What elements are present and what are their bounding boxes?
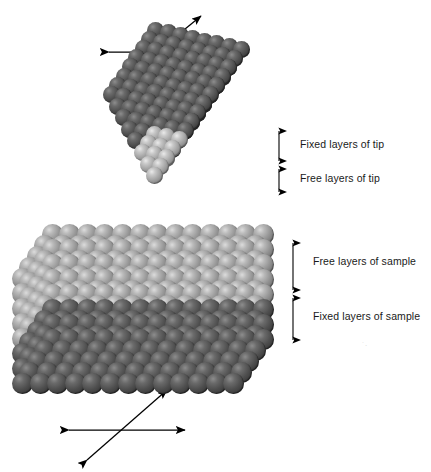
bracket-fixed-sample <box>285 294 301 346</box>
scan-axes-bottom-icon <box>63 382 213 468</box>
atom-sphere <box>223 373 244 394</box>
bracket-fixed-tip <box>271 126 287 166</box>
figure-canvas: Fixed layers of tip Free layers of tip F… <box>0 0 431 472</box>
label-free-layers-of-sample: Free layers of sample <box>313 255 416 267</box>
bracket-free-tip <box>271 165 287 197</box>
atom-sphere <box>146 167 163 184</box>
label-free-layers-of-tip: Free layers of tip <box>300 172 380 184</box>
bracket-free-sample <box>285 238 301 296</box>
scan-artifact: ˙· <box>362 342 367 350</box>
label-fixed-layers-of-tip: Fixed layers of tip <box>300 138 384 150</box>
label-fixed-layers-of-sample: Fixed layers of sample <box>313 310 420 322</box>
